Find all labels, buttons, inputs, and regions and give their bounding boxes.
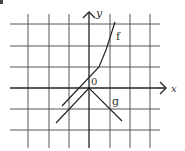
x-axis-label: x <box>171 83 177 94</box>
coordinate-graph: x y 0 f g <box>0 0 185 151</box>
corner-artifact <box>0 0 3 4</box>
curve-g-label: g <box>112 95 119 108</box>
origin-label: 0 <box>91 76 97 87</box>
axes <box>10 12 166 148</box>
curve-f-label: f <box>116 30 121 43</box>
y-axis-label: y <box>95 7 103 20</box>
